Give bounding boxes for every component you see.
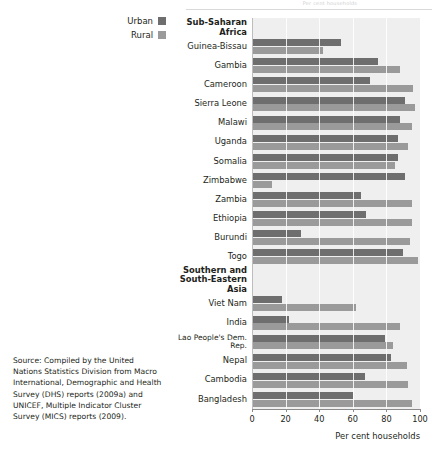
category-label: Cambodia xyxy=(168,375,252,384)
chart-legend: Urban Rural xyxy=(96,14,166,42)
chart-data-row: Sierra Leone xyxy=(168,94,420,113)
chart-rows: Sub-Saharan AfricaGuinea-BissauGambiaCam… xyxy=(168,18,420,409)
x-tick-40 xyxy=(319,409,320,412)
category-label: Bangladesh xyxy=(168,395,252,404)
chart-data-row: Malawi xyxy=(168,113,420,132)
bars-cell xyxy=(252,56,420,75)
category-label: Lao People's Dem. Rep. xyxy=(168,334,252,351)
legend-item-urban: Urban xyxy=(96,14,166,28)
bars-cell xyxy=(252,152,420,171)
bars-cell xyxy=(252,266,420,294)
bar-rural xyxy=(252,238,410,245)
bar-rural xyxy=(252,200,412,207)
chart-data-row: Lao People's Dem. Rep. xyxy=(168,332,420,351)
x-tick-label-60: 60 xyxy=(348,414,358,424)
x-tick-20 xyxy=(286,409,287,412)
bar-urban xyxy=(252,173,405,180)
cropped-top-caption: Per cent households xyxy=(250,0,410,7)
chart-data-row: Bangladesh xyxy=(168,390,420,409)
bars-cell xyxy=(252,352,420,371)
bar-rural xyxy=(252,47,323,54)
x-tick-80 xyxy=(386,409,387,412)
category-label: Gambia xyxy=(168,61,252,70)
category-label: Malawi xyxy=(168,118,252,127)
bars-cell xyxy=(252,18,420,37)
bar-rural xyxy=(252,143,408,150)
bar-rural xyxy=(252,381,408,388)
chart-data-row: Ethiopia xyxy=(168,209,420,228)
chart-data-row: Gambia xyxy=(168,56,420,75)
chart-data-row: Cameroon xyxy=(168,75,420,94)
bars-cell xyxy=(252,390,420,409)
category-label: Somalia xyxy=(168,157,252,166)
bar-urban xyxy=(252,192,361,199)
bar-rural xyxy=(252,342,393,349)
chart-group-header-row: Southern and South-Eastern Asia xyxy=(168,266,420,294)
bars-cell xyxy=(252,37,420,56)
x-tick-0 xyxy=(252,409,253,412)
category-label: Nepal xyxy=(168,356,252,365)
bar-urban xyxy=(252,97,405,104)
bar-urban xyxy=(252,116,400,123)
group-label: Southern and South-Eastern Asia xyxy=(168,266,252,294)
bar-urban xyxy=(252,154,398,161)
bars-cell xyxy=(252,190,420,209)
bar-rural xyxy=(252,362,407,369)
bars-cell xyxy=(252,171,420,190)
bars-cell xyxy=(252,332,420,351)
bar-rural xyxy=(252,162,395,169)
chart-data-row: Uganda xyxy=(168,133,420,152)
chart-data-row: Cambodia xyxy=(168,371,420,390)
x-axis-label: Per cent households xyxy=(335,431,420,441)
category-label: Togo xyxy=(168,252,252,261)
chart-data-row: Nepal xyxy=(168,352,420,371)
x-tick-label-0: 0 xyxy=(249,414,254,424)
bars-cell xyxy=(252,247,420,266)
bars-cell xyxy=(252,228,420,247)
source-note: Source: Compiled by the United Nations S… xyxy=(13,355,165,422)
category-label: Sierra Leone xyxy=(168,99,252,108)
legend-swatch-rural xyxy=(158,31,166,39)
bars-cell xyxy=(252,371,420,390)
bar-rural xyxy=(252,123,412,130)
chart-data-row: Burundi xyxy=(168,228,420,247)
bars-cell xyxy=(252,113,420,132)
bars-cell xyxy=(252,294,420,313)
chart-data-row: Guinea-Bissau xyxy=(168,37,420,56)
bar-urban xyxy=(252,296,282,303)
bar-rural xyxy=(252,85,413,92)
bar-rural xyxy=(252,104,415,111)
x-tick-label-100: 100 xyxy=(412,414,428,424)
legend-swatch-urban xyxy=(158,17,166,25)
category-label: Uganda xyxy=(168,137,252,146)
legend-label-rural: Rural xyxy=(131,31,153,40)
x-tick-60 xyxy=(353,409,354,412)
bar-urban xyxy=(252,230,301,237)
bar-urban xyxy=(252,58,378,65)
category-label: Guinea-Bissau xyxy=(168,42,252,51)
bar-rural xyxy=(252,400,412,407)
chart-group-header-row: Sub-Saharan Africa xyxy=(168,18,420,37)
bar-urban xyxy=(252,249,403,256)
chart-data-row: Zimbabwe xyxy=(168,171,420,190)
chart-data-row: Zambia xyxy=(168,190,420,209)
x-tick-label-80: 80 xyxy=(381,414,391,424)
category-label: Zambia xyxy=(168,195,252,204)
bar-urban xyxy=(252,135,398,142)
bars-cell xyxy=(252,209,420,228)
chart-data-row: Togo xyxy=(168,247,420,266)
group-label: Sub-Saharan Africa xyxy=(168,18,252,37)
bar-rural xyxy=(252,323,400,330)
bar-urban xyxy=(252,392,353,399)
bars-cell xyxy=(252,313,420,332)
bar-rural xyxy=(252,304,356,311)
bar-rural xyxy=(252,257,418,264)
category-label: Burundi xyxy=(168,233,252,242)
bar-urban xyxy=(252,77,370,84)
gridline-100 xyxy=(420,18,421,409)
x-axis: Per cent households 020406080100 xyxy=(252,409,420,433)
bars-cell xyxy=(252,94,420,113)
bar-chart: Sub-Saharan AfricaGuinea-BissauGambiaCam… xyxy=(168,18,420,433)
bars-cell xyxy=(252,75,420,94)
bar-urban xyxy=(252,373,365,380)
